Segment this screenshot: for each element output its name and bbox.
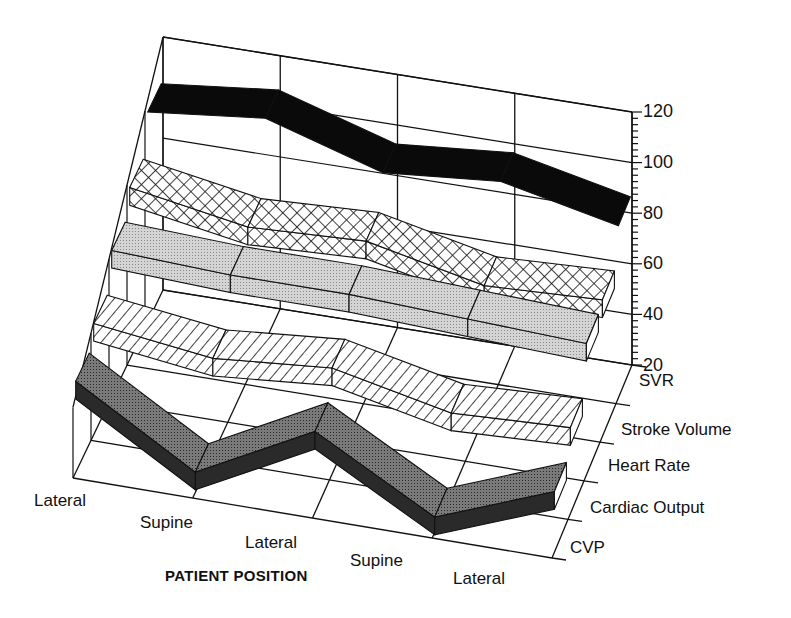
y-tick-60: 60 [643, 253, 663, 274]
y-tick-100: 100 [643, 152, 673, 173]
depth-label-cardiac-output: Cardiac Output [590, 498, 704, 518]
x-label-lateral-1: Lateral [34, 491, 86, 511]
depth-label-heart-rate: Heart Rate [608, 456, 690, 476]
depth-label-cvp: CVP [570, 538, 605, 558]
series-layer [76, 84, 631, 535]
chart-3d-plot [0, 0, 791, 618]
y-tick-80: 80 [643, 203, 663, 224]
x-label-lateral-2: Lateral [245, 533, 297, 553]
x-axis-title: PATIENT POSITION [165, 567, 308, 584]
x-label-lateral-3: Lateral [453, 569, 505, 589]
depth-label-svr: SVR [639, 371, 674, 391]
depth-label-stroke-volume: Stroke Volume [621, 420, 732, 440]
y-axis [632, 112, 642, 365]
x-label-supine-2: Supine [350, 551, 403, 571]
y-tick-120: 120 [643, 101, 673, 122]
y-tick-40: 40 [643, 304, 663, 325]
x-label-supine-1: Supine [140, 513, 193, 533]
